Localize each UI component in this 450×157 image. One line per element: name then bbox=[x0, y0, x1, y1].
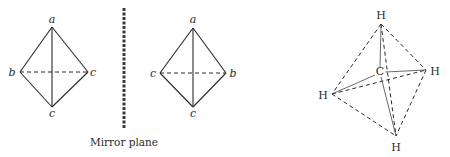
bond-c-h-top bbox=[380, 24, 381, 68]
edge-c-left-c-bottom bbox=[160, 73, 193, 107]
outline-right-bottom bbox=[396, 70, 426, 136]
bond-c-h-right bbox=[385, 70, 426, 72]
vertex-label-bottom: c bbox=[190, 107, 196, 120]
edge-a-b bbox=[193, 28, 226, 73]
edge-c-right-c-bottom bbox=[52, 72, 88, 107]
edge-a-c-right bbox=[52, 27, 88, 72]
outline-top-bottom bbox=[381, 24, 396, 136]
vertex-label-left: b bbox=[8, 66, 15, 79]
figure-canvas: a b c c Mirror plane a c b c C bbox=[0, 0, 450, 157]
outline-top-right bbox=[381, 24, 426, 70]
bond-c-h-bottom bbox=[381, 77, 396, 136]
edge-a-c-left bbox=[160, 28, 193, 73]
mirror-plane: Mirror plane bbox=[90, 8, 158, 148]
edge-b-c-bottom bbox=[193, 73, 226, 107]
vertex-label-bottom: c bbox=[49, 107, 55, 120]
atom-carbon: C bbox=[376, 65, 384, 78]
vertex-label-top: a bbox=[49, 13, 56, 26]
atom-h-bottom: H bbox=[391, 141, 401, 154]
vertex-label-top: a bbox=[190, 13, 197, 26]
vertex-label-right: c bbox=[90, 66, 96, 79]
left-tetrahedron: a b c c bbox=[8, 13, 96, 120]
vertex-label-left: c bbox=[150, 67, 156, 80]
atom-h-top: H bbox=[376, 9, 386, 22]
right-tetrahedron: a c b c bbox=[150, 13, 237, 120]
edge-b-c-bottom bbox=[20, 72, 52, 107]
atom-h-right: H bbox=[430, 65, 440, 78]
methane-structure: C H H H H bbox=[318, 9, 440, 154]
edge-a-b bbox=[20, 27, 52, 72]
vertex-label-right: b bbox=[229, 67, 236, 80]
atom-h-left: H bbox=[318, 89, 328, 102]
mirror-caption: Mirror plane bbox=[90, 136, 158, 148]
outline-left-bottom bbox=[332, 94, 396, 136]
